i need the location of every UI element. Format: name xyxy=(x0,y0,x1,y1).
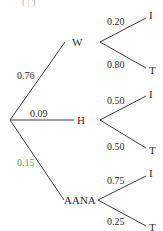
prob-h-t-label: 0.50 xyxy=(107,141,125,152)
outcome-aana-t: T xyxy=(149,221,156,231)
outcome-w-t: T xyxy=(149,64,156,76)
outcome-h-t: T xyxy=(149,144,156,156)
prob-aana-t-label: 0.25 xyxy=(107,216,125,227)
outcome-h-i: I xyxy=(149,88,153,100)
prob-aana-i-label: 0.75 xyxy=(107,175,125,186)
node-w: W xyxy=(72,36,83,48)
node-aana: AANA xyxy=(64,194,96,206)
root-edges xyxy=(10,42,74,200)
node-h: H xyxy=(77,114,85,126)
outcome-aana-i: I xyxy=(149,167,153,179)
prob-h-label: 0.09 xyxy=(30,108,48,119)
prob-aana-label: 0.15 xyxy=(17,157,35,168)
prob-h-i-label: 0.50 xyxy=(107,95,125,106)
outcome-w-i: I xyxy=(149,9,153,21)
prob-w-label: 0.76 xyxy=(17,70,35,81)
header-fragment: ( | ) xyxy=(22,0,36,8)
prob-w-i-label: 0.20 xyxy=(107,16,125,27)
probability-tree-diagram: ( | ) 0.76 0.09 0.15 W 0.20 0.80 I T H 0… xyxy=(0,0,163,231)
prob-w-t-label: 0.80 xyxy=(107,59,125,70)
